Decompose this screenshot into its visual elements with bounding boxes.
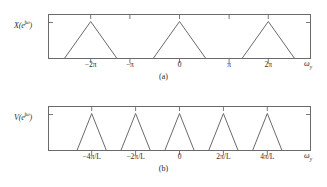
panel-b-tick-label-4: 4π/L xyxy=(260,152,274,161)
panel-a-tick-label-1: −π xyxy=(126,60,134,69)
figure-container: X(ejω) xyxy=(0,0,327,187)
panel-a-tick-label-0: −2π xyxy=(85,60,97,69)
panel-b-y-axis-label: V(ejω) xyxy=(14,111,32,122)
panel-a: X(ejω) xyxy=(0,0,327,95)
panel-a-tick-label-4: 2π xyxy=(265,60,273,69)
panel-b: V(ejω) −4π/L −2π/L xyxy=(0,92,327,187)
panel-b-tick-label-2: 0 xyxy=(178,152,182,161)
panel-b-x-axis-label: ωy xyxy=(304,151,312,162)
panel-a-x-axis-label: ωy xyxy=(304,59,312,70)
panel-a-caption: (a) xyxy=(0,72,327,81)
panel-b-tick-label-0: −4π/L xyxy=(82,152,100,161)
panel-b-tick-label-1: −2π/L xyxy=(126,152,144,161)
panel-a-tick-label-2: 0 xyxy=(178,60,182,69)
panel-b-caption: (b) xyxy=(0,164,327,173)
panel-a-y-axis-label: X(ejω) xyxy=(14,19,32,30)
panel-a-tick-label-3: π xyxy=(227,60,231,69)
panel-b-tick-label-3: 2π/L xyxy=(216,152,230,161)
